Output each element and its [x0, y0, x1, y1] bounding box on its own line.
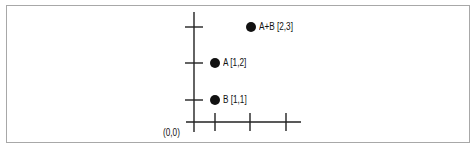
point-a-plus-b-label: A+B [2,3] [259, 21, 293, 32]
point-a-plus-b [246, 22, 256, 32]
x-axis [186, 113, 301, 131]
vector-plot [0, 0, 476, 150]
origin-label: (0,0) [163, 127, 180, 138]
point-a-label: A [1,2] [223, 57, 246, 68]
y-axis [185, 12, 203, 132]
point-b-label: B [1,1] [223, 94, 247, 105]
point-b [210, 95, 220, 105]
point-a [210, 58, 220, 68]
